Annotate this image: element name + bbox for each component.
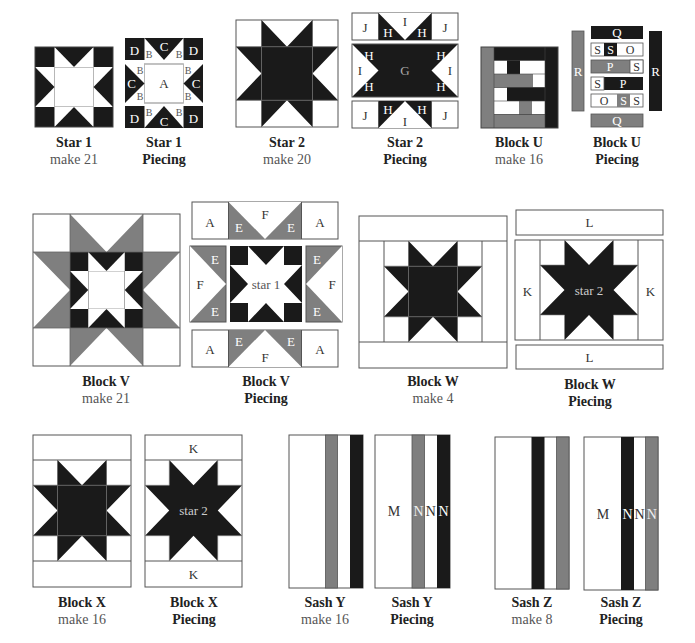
caption-block-v: Block V make 21 <box>82 373 130 407</box>
caption-subtitle: Piecing <box>599 611 643 628</box>
star-2-graphic <box>236 20 338 127</box>
caption-title: Star 2 <box>263 134 311 151</box>
caption-subtitle: make 20 <box>263 151 311 168</box>
block-u-diagram <box>481 47 558 128</box>
svg-text:F: F <box>261 207 268 222</box>
caption-sash-z-piecing: Sash Z Piecing <box>599 594 643 628</box>
sash-y-piecing-graphic: M N N N <box>375 435 450 588</box>
svg-text:R: R <box>574 64 583 79</box>
svg-text:A: A <box>315 215 325 230</box>
caption-title: Block W <box>407 373 458 390</box>
svg-text:H: H <box>364 79 373 94</box>
caption-title: Block X <box>170 594 218 611</box>
caption-block-x-piecing: Block X Piecing <box>170 594 218 628</box>
svg-text:H: H <box>417 25 426 40</box>
svg-text:B: B <box>137 91 144 102</box>
caption-subtitle: Piecing <box>242 390 290 407</box>
svg-text:A: A <box>159 76 169 91</box>
svg-text:S: S <box>607 43 614 57</box>
svg-text:C: C <box>160 114 169 129</box>
svg-text:F: F <box>196 277 203 292</box>
caption-subtitle: make 16 <box>301 611 349 628</box>
star-1-graphic <box>35 47 113 127</box>
svg-text:F: F <box>328 277 335 292</box>
sash-z-piecing-diagram: M N N N <box>584 437 658 590</box>
star-1-center-label: star 1 <box>252 277 281 292</box>
svg-text:B: B <box>185 91 192 102</box>
block-x-graphic <box>33 435 131 587</box>
svg-text:F: F <box>261 350 268 365</box>
block-v-graphic <box>33 214 180 366</box>
caption-subtitle: Piecing <box>390 611 434 628</box>
svg-text:H: H <box>436 79 445 94</box>
caption-block-v-piecing: Block V Piecing <box>242 373 290 407</box>
sash-y-diagram <box>289 435 363 588</box>
svg-text:E: E <box>235 220 243 235</box>
caption-title: Sash Y <box>301 594 349 611</box>
svg-text:I: I <box>448 63 452 78</box>
svg-text:N: N <box>438 504 448 519</box>
block-x-piecing-diagram: K K star 2 <box>145 435 242 587</box>
svg-text:L: L <box>586 350 594 365</box>
svg-text:D: D <box>130 43 139 58</box>
svg-text:S: S <box>594 43 601 57</box>
caption-star-2-piecing: Star 2 Piecing <box>383 134 427 168</box>
svg-text:B: B <box>185 65 192 76</box>
svg-text:H: H <box>417 102 426 117</box>
svg-text:S: S <box>594 77 601 91</box>
block-u-piecing-diagram: R R Q S S O P S S P O S S Q <box>570 24 663 130</box>
svg-text:Q: Q <box>612 113 622 128</box>
sash-z-graphic <box>495 437 569 589</box>
svg-text:H: H <box>383 102 392 117</box>
caption-subtitle: make 8 <box>512 611 553 628</box>
svg-text:A: A <box>205 215 215 230</box>
svg-text:A: A <box>205 342 215 357</box>
svg-text:B: B <box>176 107 183 118</box>
svg-text:B: B <box>146 107 153 118</box>
svg-text:I: I <box>403 114 407 129</box>
caption-title: Star 1 <box>142 134 186 151</box>
svg-text:N: N <box>647 507 657 522</box>
svg-text:D: D <box>189 43 198 58</box>
caption-sash-y: Sash Y make 16 <box>301 594 349 628</box>
block-v-diagram <box>33 214 180 366</box>
caption-subtitle: make 16 <box>495 151 543 168</box>
svg-text:S: S <box>620 94 627 108</box>
caption-subtitle: make 4 <box>407 390 458 407</box>
caption-subtitle: Piecing <box>170 611 218 628</box>
block-x-piecing-graphic: K K star 2 <box>145 435 242 587</box>
svg-text:E: E <box>287 220 295 235</box>
svg-text:N: N <box>622 507 632 522</box>
star-2-piecing-graphic: J J I H H G I I H H H H J J I H H <box>352 13 458 128</box>
caption-block-w: Block W make 4 <box>407 373 458 407</box>
star-2-piecing-diagram: J J I H H G I I H H H H J J I H H <box>352 13 458 128</box>
svg-text:J: J <box>442 108 447 123</box>
svg-text:K: K <box>189 441 199 456</box>
star-2-center-label: star 2 <box>179 503 208 518</box>
svg-text:C: C <box>192 76 201 91</box>
svg-text:K: K <box>189 567 199 582</box>
caption-sash-y-piecing: Sash Y Piecing <box>390 594 434 628</box>
svg-text:D: D <box>130 111 139 126</box>
svg-text:I: I <box>403 14 407 29</box>
block-w-piecing-graphic: L K K star 2 L <box>515 210 664 370</box>
sash-y-piecing-diagram: M N N N <box>375 435 450 588</box>
svg-text:M: M <box>597 507 610 522</box>
caption-title: Star 2 <box>383 134 427 151</box>
svg-text:B: B <box>146 49 153 60</box>
block-u-graphic <box>481 47 558 128</box>
svg-text:H: H <box>436 48 445 63</box>
svg-text:J: J <box>442 20 447 35</box>
caption-title: Star 1 <box>50 134 98 151</box>
svg-text:S: S <box>633 94 640 108</box>
caption-title: Sash Z <box>512 594 553 611</box>
caption-block-u-piecing: Block U Piecing <box>593 134 641 168</box>
caption-title: Block V <box>242 373 290 390</box>
svg-text:E: E <box>235 334 243 349</box>
star-2-center-label: star 2 <box>575 283 604 298</box>
caption-title: Block V <box>82 373 130 390</box>
svg-text:C: C <box>160 39 169 54</box>
caption-title: Block X <box>58 594 106 611</box>
sash-y-graphic <box>289 435 363 588</box>
svg-text:Q: Q <box>612 25 622 40</box>
